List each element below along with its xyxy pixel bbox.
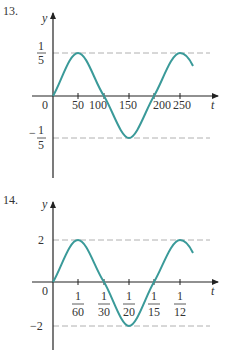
x-tick-label: 1 60	[72, 289, 84, 319]
svg-text:1: 1	[126, 289, 132, 303]
y-tick-label-min: −2	[30, 319, 43, 333]
svg-text:1: 1	[38, 39, 44, 53]
svg-text:1: 1	[151, 289, 157, 303]
y-tick-label-max: 2	[38, 233, 44, 247]
svg-text:1: 1	[101, 289, 107, 303]
x-tick-label: 1 20	[123, 289, 135, 319]
problem-number: 14.	[3, 193, 18, 207]
svg-text:5: 5	[38, 53, 44, 67]
charts-canvas: 13. y t 0 1 5 − 1 5	[0, 0, 226, 350]
svg-text:1: 1	[75, 289, 81, 303]
y-tick-label-min: − 1 5	[29, 123, 46, 152]
x-tick-label: 1 12	[174, 289, 186, 319]
y-axis-label: y	[41, 197, 48, 211]
svg-text:15: 15	[148, 305, 160, 319]
x-axis-label: t	[211, 284, 215, 298]
x-tick-label: 50	[72, 98, 84, 112]
x-tick-label: 150	[119, 98, 137, 112]
chart-14: 14. y t 0 2 −2 1 60 1 30 1	[3, 193, 218, 350]
problem-number: 13.	[3, 4, 18, 18]
svg-text:20: 20	[123, 305, 135, 319]
x-tick-label: 200	[153, 98, 171, 112]
x-axis-label: t	[211, 98, 215, 112]
origin-label: 0	[42, 284, 48, 298]
chart-13: 13. y t 0 1 5 − 1 5	[3, 4, 218, 178]
svg-text:12: 12	[174, 305, 186, 319]
svg-text:−: −	[29, 126, 36, 140]
y-axis-label: y	[41, 11, 48, 25]
x-tick-label: 250	[173, 98, 191, 112]
svg-text:5: 5	[38, 138, 44, 152]
x-tick-label: 1 15	[148, 289, 160, 319]
svg-text:1: 1	[177, 289, 183, 303]
svg-text:60: 60	[72, 305, 84, 319]
svg-text:1: 1	[38, 123, 44, 137]
x-tick-label: 1 30	[98, 289, 110, 319]
x-tick-label: 100	[89, 98, 107, 112]
y-tick-label-max: 1 5	[37, 39, 46, 67]
svg-text:30: 30	[98, 305, 110, 319]
origin-label: 0	[42, 98, 48, 112]
